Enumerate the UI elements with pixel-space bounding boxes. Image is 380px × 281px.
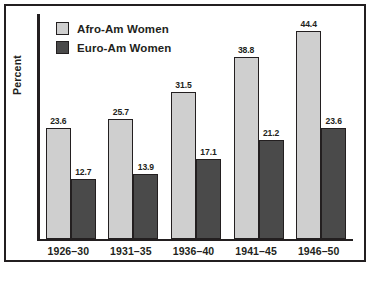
bar-euro-am xyxy=(259,140,284,239)
chart-legend: Afro-Am Women Euro-Am Women xyxy=(56,20,206,58)
bar-afro-am xyxy=(234,57,259,238)
x-axis-tick-labels: 1926–301931–351936–401941–451946–50 xyxy=(37,245,353,261)
bar-value-label: 38.8 xyxy=(228,45,265,55)
y-axis-title: Percent xyxy=(10,40,24,110)
bar-value-label: 25.7 xyxy=(102,107,139,117)
x-axis-line xyxy=(37,239,353,242)
chart-figure: Percent 23.612.725.713.931.517.138.821.2… xyxy=(0,0,380,281)
bar-afro-am xyxy=(171,92,196,239)
x-tick-label: 1946–50 xyxy=(287,245,350,257)
bar-euro-am xyxy=(321,128,346,238)
bar-value-label: 12.7 xyxy=(65,167,102,177)
bar-afro-am xyxy=(108,119,133,239)
bar-euro-am xyxy=(196,159,221,239)
x-tick-label: 1936–40 xyxy=(162,245,225,257)
bar-value-label: 21.2 xyxy=(253,128,290,138)
bar-value-label: 31.5 xyxy=(165,80,202,90)
legend-label-afro-am-women: Afro-Am Women xyxy=(77,23,169,35)
bar-value-label: 13.9 xyxy=(127,162,164,172)
bar-value-label: 23.6 xyxy=(40,116,77,126)
legend-item-afro-am-women: Afro-Am Women xyxy=(56,20,206,37)
bar-value-label: 23.6 xyxy=(315,116,352,126)
bar-euro-am xyxy=(133,174,158,239)
bar-afro-am xyxy=(296,31,321,238)
bar-afro-am xyxy=(46,128,71,238)
bar-group: 38.821.2 xyxy=(234,15,284,239)
bar-value-label: 17.1 xyxy=(190,147,227,157)
x-tick-label: 1941–45 xyxy=(225,245,288,257)
x-tick-label: 1931–35 xyxy=(100,245,163,257)
legend-item-euro-am-women: Euro-Am Women xyxy=(56,39,206,56)
legend-label-euro-am-women: Euro-Am Women xyxy=(77,42,171,54)
bar-euro-am xyxy=(71,179,96,238)
legend-swatch-dark xyxy=(56,41,69,54)
x-tick-label: 1926–30 xyxy=(37,245,100,257)
bar-group: 44.423.6 xyxy=(296,15,346,239)
bar-value-label: 44.4 xyxy=(290,19,327,29)
legend-swatch-light xyxy=(56,22,69,35)
